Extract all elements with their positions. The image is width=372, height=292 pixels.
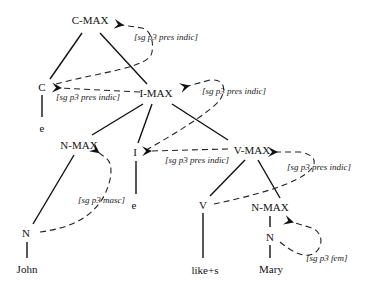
node-i: I bbox=[133, 147, 137, 158]
node-n-subject: N bbox=[22, 228, 30, 239]
node-n-max-subject: N-MAX bbox=[60, 140, 97, 151]
node-v-max: V-MAX bbox=[234, 145, 270, 156]
node-c: C bbox=[38, 82, 45, 93]
leaf-john: John bbox=[17, 264, 38, 275]
feature-label-n-max-subject: [sg p3 masc] bbox=[78, 196, 125, 205]
node-i-empty: e bbox=[132, 200, 137, 211]
node-c-empty: e bbox=[40, 123, 45, 134]
feature-label-c-max: [sg p3 pres indic] bbox=[134, 33, 198, 42]
feature-label-n-max-object: [sg p3 fem] bbox=[306, 254, 348, 263]
feature-label-c: [sg p3 pres indic] bbox=[56, 93, 120, 102]
node-v: V bbox=[199, 200, 207, 211]
leaf-likes: like+s bbox=[192, 265, 219, 276]
feature-label-i: [sg p3 pres indic] bbox=[165, 156, 229, 165]
leaf-mary: Mary bbox=[259, 264, 283, 275]
node-c-max: C-MAX bbox=[72, 15, 109, 26]
syntax-tree-diagram: C-MAX C e I-MAX N-MAX I e V-MAX V N-MAX … bbox=[0, 0, 372, 292]
tree-edges bbox=[0, 0, 372, 292]
node-n-object: N bbox=[266, 232, 274, 243]
feature-label-i-max: [sg p3 pres indic] bbox=[202, 87, 266, 96]
feature-label-v-max: [sg p3 pres indic] bbox=[287, 163, 351, 172]
node-n-max-object: N-MAX bbox=[251, 202, 288, 213]
node-i-max: I-MAX bbox=[140, 88, 173, 99]
